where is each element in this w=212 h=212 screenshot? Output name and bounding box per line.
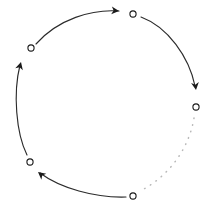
edge-n5-to-n1 (36, 11, 119, 44)
diagram-canvas (0, 0, 212, 212)
node-marker-n2[interactable] (193, 104, 199, 110)
node-marker-n3[interactable] (130, 193, 136, 199)
edge-n3-to-n4 (40, 173, 126, 197)
node-marker-n5[interactable] (28, 45, 34, 51)
edge-n4-to-n5 (16, 65, 27, 155)
edge-n2-to-n3-dotted (142, 118, 194, 190)
edge-n1-to-n2 (141, 17, 195, 86)
arrowhead-group (15, 6, 199, 179)
node-marker-n1[interactable] (130, 11, 136, 17)
node-marker-n4[interactable] (27, 159, 33, 165)
edge-group (16, 11, 195, 197)
node-group (27, 11, 199, 199)
cycle-diagram (0, 0, 212, 212)
